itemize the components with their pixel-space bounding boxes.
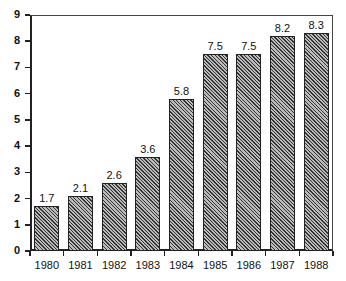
y-tick-mark [25,14,30,16]
bar-1988 [304,33,329,251]
y-tick-mark [25,145,30,147]
x-tick-mark [97,251,99,256]
x-tick-mark [231,251,233,256]
bar-value-label: 7.5 [198,40,232,52]
bar-1983 [135,157,160,251]
y-tick-label: 3 [6,165,20,177]
x-tick-label: 1988 [299,259,333,271]
bar-value-label: 5.8 [165,85,199,97]
bar-1985 [203,54,228,251]
y-tick-mark [25,93,30,95]
y-tick-label: 4 [6,139,20,151]
bar-1987 [270,36,295,251]
y-tick-label: 9 [6,8,20,20]
y-tick-mark [25,119,30,121]
y-tick-mark [25,224,30,226]
x-tick-mark [332,251,334,256]
x-tick-mark [63,251,65,256]
y-tick-label: 6 [6,87,20,99]
bar-1986 [236,54,261,251]
bar-value-label: 8.3 [299,19,333,31]
bar-value-label: 8.2 [266,22,300,34]
y-tick-label: 7 [6,60,20,72]
y-tick-mark [25,40,30,42]
y-tick-label: 0 [6,244,20,256]
x-tick-label: 1985 [198,259,232,271]
y-tick-label: 2 [6,192,20,204]
x-tick-label: 1984 [165,259,199,271]
x-tick-mark [299,251,301,256]
bar-value-label: 3.6 [131,143,165,155]
bar-1984 [169,99,194,251]
x-tick-mark [29,251,31,256]
x-tick-mark [198,251,200,256]
bar-1982 [102,183,127,251]
bar-value-label: 2.6 [97,169,131,181]
bar-value-label: 2.1 [64,182,98,194]
x-tick-mark [164,251,166,256]
x-tick-label: 1982 [97,259,131,271]
x-tick-label: 1987 [266,259,300,271]
x-tick-mark [265,251,267,256]
x-tick-mark [130,251,132,256]
bar-chart: 0123456789 19801981198219831984198519861… [0,0,346,281]
bar-value-label: 7.5 [232,40,266,52]
x-tick-label: 1980 [30,259,64,271]
y-tick-label: 5 [6,113,20,125]
x-tick-label: 1986 [232,259,266,271]
y-tick-mark [25,172,30,174]
x-tick-label: 1983 [131,259,165,271]
bar-1981 [68,196,93,251]
y-tick-label: 1 [6,218,20,230]
x-tick-label: 1981 [64,259,98,271]
bar-1980 [34,206,59,251]
bar-value-label: 1.7 [30,192,64,204]
y-tick-mark [25,67,30,69]
y-tick-label: 8 [6,34,20,46]
